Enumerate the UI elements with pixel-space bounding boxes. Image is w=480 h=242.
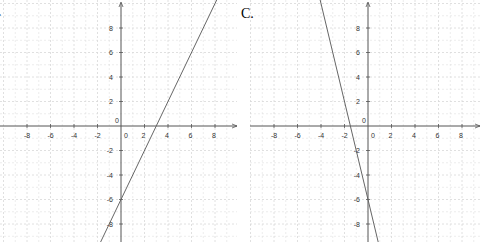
y-tick-label: -4 [107,172,113,179]
x-tick-label: -6 [48,132,54,139]
y-tick-label: 4 [109,74,113,81]
y-tick-label: 6 [356,49,360,56]
x-tick-label: 8 [459,132,463,139]
x-tick-label: 6 [436,132,440,139]
y-tick-label: 4 [356,74,360,81]
graphs-canvas: -8-6-4-2002468-8-6-4-22468-8-6-4-2002468… [0,0,480,242]
x-tick-label: -2 [342,132,348,139]
x-tick-label: -4 [71,132,77,139]
graph-panel-left: -8-6-4-2002468-8-6-4-22468 [0,0,237,242]
origin-label: 0 [115,117,119,124]
x-tick-label: -6 [295,132,301,139]
y-tick-label: -4 [354,172,360,179]
x-tick-label: -8 [24,132,30,139]
x-tick-label: -2 [95,132,101,139]
x-tick-label: 6 [189,132,193,139]
graph-panel-c: -8-6-4-2002468-8-6-4-22468 [250,0,480,242]
x-tick-label: 0 [371,132,375,139]
origin-label: 0 [362,117,366,124]
y-tick-label: 8 [109,25,113,32]
y-tick-label: 8 [356,25,360,32]
x-tick-label: 4 [412,132,416,139]
x-tick-label: 0 [124,132,128,139]
y-tick-label: 2 [109,98,113,105]
y-tick-label: -2 [107,147,113,154]
y-tick-label: 6 [109,49,113,56]
x-tick-label: -4 [318,132,324,139]
y-tick-label: -6 [107,196,113,203]
x-tick-label: -8 [271,132,277,139]
y-tick-label: 2 [356,98,360,105]
y-tick-label: -6 [354,196,360,203]
x-tick-label: 2 [389,132,393,139]
x-tick-label: 8 [212,132,216,139]
x-tick-label: 4 [165,132,169,139]
y-tick-label: -8 [354,221,360,228]
x-tick-label: 2 [142,132,146,139]
